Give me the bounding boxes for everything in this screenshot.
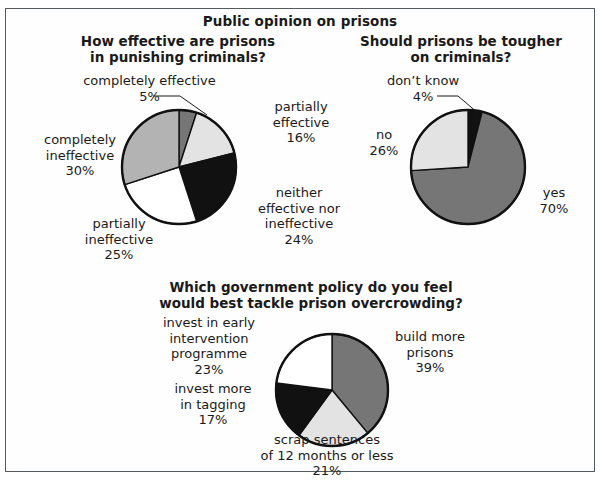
pie-q1-label-partially-effective: partially effective 16% [246, 99, 356, 146]
chart-title-q1-line2: in punishing criminals? [30, 49, 326, 65]
pie-q3-label-invest-early-intervention: invest in early intervention programme 2… [129, 315, 289, 377]
pie-q1-label-completely-effective: completely effective 5% [42, 73, 257, 104]
pie-q1-label-completely-ineffective: completely ineffective 30% [28, 132, 132, 179]
pie-q1-label-partially-ineffective: partially ineffective 25% [64, 216, 174, 263]
pie-q3-label-scrap-sentences: scrap sentences of 12 months or less 21% [251, 432, 403, 479]
pie-q2-label-no: no 26% [356, 127, 412, 158]
pie-q1-label-neither-effective-nor-ineffective: neither effective nor ineffective 24% [239, 185, 359, 247]
chart-title-q2: Should prisons be tougher on criminals? [336, 33, 586, 65]
chart-title-q3-line2: would best tackle prison overcrowding? [116, 295, 506, 311]
page-title: Public opinion on prisons [6, 13, 594, 29]
pie-chart-q1[interactable] [119, 107, 239, 227]
chart-title-q1-line1: How effective are prisons [30, 33, 326, 49]
pie-q2-label-yes: yes 70% [522, 185, 586, 216]
chart-title-q2-line1: Should prisons be tougher [336, 33, 586, 49]
chart-title-q1: How effective are prisons in punishing c… [30, 33, 326, 65]
pie-q3-label-invest-more-in-tagging: invest more in tagging 17% [158, 381, 268, 428]
chart-title-q2-line2: on criminals? [336, 49, 586, 65]
chart-title-q3: Which government policy do you feel woul… [116, 279, 506, 311]
pie-q2-svg [408, 107, 528, 227]
pie-chart-q2[interactable] [408, 107, 528, 227]
figure-border: Public opinion on prisons How effective … [5, 8, 595, 472]
pie-q2-slice-no[interactable] [411, 110, 468, 171]
pie-q3-label-build-more-prisons: build more prisons 39% [378, 329, 482, 376]
pie-q1-svg [119, 107, 239, 227]
chart-title-q3-line1: Which government policy do you feel [116, 279, 506, 295]
pie-q2-label-dont-know: don’t know 4% [358, 73, 488, 104]
